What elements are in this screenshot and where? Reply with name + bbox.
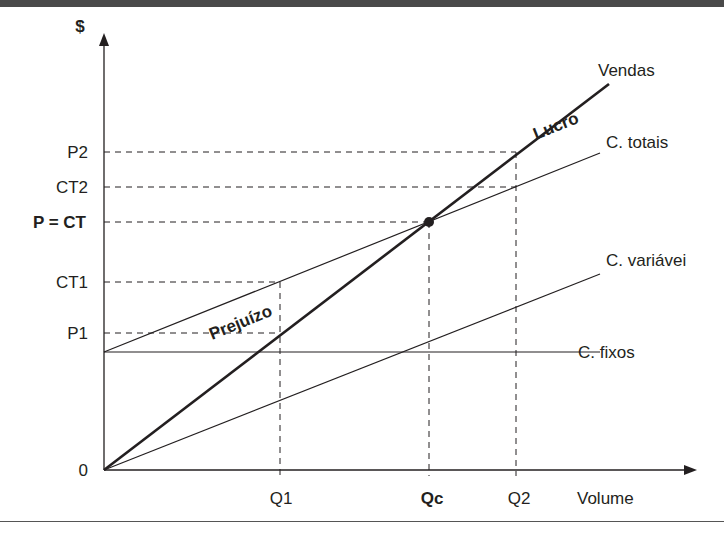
x-axis-arrow-icon: [684, 465, 697, 475]
y-tick-pct: P = CT: [33, 213, 87, 232]
x-axis-label: Volume: [577, 489, 634, 508]
series-label-fixos: C. fixos: [578, 343, 635, 362]
series-label-variaveis: C. variávei: [606, 251, 686, 270]
y-tick-p1: P1: [67, 324, 88, 343]
variable-cost-line: [104, 274, 600, 470]
profit-region-label: Lucro: [530, 108, 581, 143]
origin-label: 0: [79, 461, 88, 480]
y-axis-arrow-icon: [99, 33, 109, 46]
loss-region-label: Prejuízo: [206, 301, 274, 343]
y-tick-ct1: CT1: [56, 273, 88, 292]
x-tick-q1: Q1: [270, 489, 293, 508]
series-label-totais: C. totais: [606, 133, 668, 152]
y-tick-ct2: CT2: [56, 178, 88, 197]
break-even-chart: $ P2 CT2 P = CT CT1 P1 0 Q1 Qc Q2 Volume…: [0, 0, 724, 538]
total-cost-line: [104, 153, 600, 352]
series-label-vendas: Vendas: [598, 61, 655, 80]
x-tick-qc: Qc: [421, 489, 444, 508]
x-tick-q2: Q2: [508, 489, 531, 508]
sales-line: [104, 84, 609, 470]
y-axis-label: $: [75, 17, 85, 36]
break-even-point: [424, 217, 434, 227]
bottom-divider: [0, 521, 724, 522]
y-tick-p2: P2: [67, 143, 88, 162]
